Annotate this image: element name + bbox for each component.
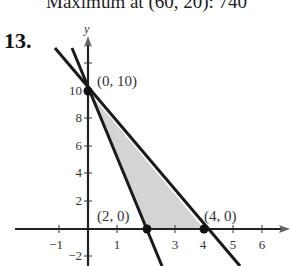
x-tick-label: 3 <box>172 237 179 252</box>
y-tick-label: 6 <box>76 138 83 153</box>
y-tick-label: 4 <box>76 165 83 180</box>
y-axis-label: y <box>83 22 90 36</box>
x-tick-label: 5 <box>230 237 237 252</box>
x-tick-label: 1 <box>114 237 121 252</box>
y-tick-label: 10 <box>69 83 82 98</box>
vertex-point-0-10 <box>84 87 93 96</box>
vertex-point-4-0 <box>200 225 209 234</box>
vertex-point-2-0 <box>143 225 152 234</box>
x-tick-label: −1 <box>49 237 63 252</box>
y-tick-label: 2 <box>76 193 83 208</box>
point-label: (4, 0) <box>204 208 237 225</box>
y-tick-label: 8 <box>76 110 83 125</box>
point-label: (2, 0) <box>97 208 130 225</box>
y-tick-labels: −2 2 4 6 8 10 <box>68 83 82 263</box>
x-tick-label: 6 <box>259 237 266 252</box>
y-tick-label: −2 <box>68 248 82 263</box>
x-tick-label: 4 <box>200 237 207 252</box>
graph: −1 1 3 4 5 6 −2 2 4 6 8 10 y (0, 10) (2,… <box>0 0 291 266</box>
point-label: (0, 10) <box>97 73 137 90</box>
